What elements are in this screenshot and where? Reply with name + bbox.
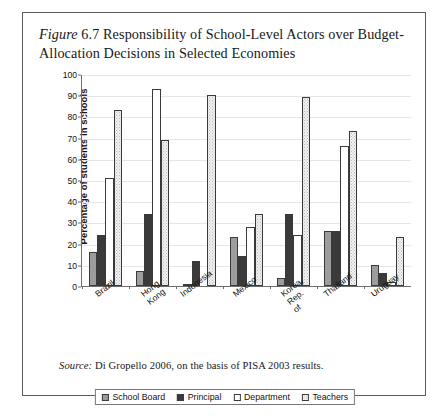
y-tick-label: 100 <box>53 70 77 80</box>
legend-label: Department <box>244 392 290 402</box>
chart-area: Percentage of students in schools 010203… <box>31 69 419 321</box>
bar-group <box>223 75 270 286</box>
figure-title: Figure 6.7 Responsibility of School-Leve… <box>39 25 407 63</box>
legend-label: School Board <box>112 392 165 402</box>
chart-legend: School BoardPrincipalDepartmentTeachers <box>95 389 355 405</box>
bar <box>324 231 332 286</box>
bar-group-bars <box>230 75 264 286</box>
x-label-cell: Thailand <box>317 289 364 339</box>
bar <box>285 214 293 286</box>
legend-swatch-icon <box>302 394 309 401</box>
plot-area <box>81 75 411 287</box>
figure-frame: Figure 6.7 Responsibility of School-Leve… <box>22 12 426 396</box>
source-text: Di Gropello 2006, on the basis of PISA 2… <box>95 360 324 371</box>
bar <box>136 271 144 286</box>
legend-item[interactable]: Department <box>233 392 289 402</box>
legend-swatch-icon <box>177 394 184 401</box>
legend-item[interactable]: Principal <box>177 392 221 402</box>
source-label: Source: <box>59 360 92 371</box>
bar <box>114 110 122 286</box>
x-label-cell: Korea, Rep. of <box>270 289 317 339</box>
x-label-cell: Mexico <box>222 289 269 339</box>
legend-label: Teachers <box>312 392 348 402</box>
bar-group <box>317 75 364 286</box>
y-tick-label: 10 <box>53 261 77 271</box>
y-tick-label: 30 <box>53 218 77 228</box>
y-tick-label: 20 <box>53 240 77 250</box>
bar <box>152 89 160 286</box>
y-tick-label: 80 <box>53 112 77 122</box>
bars-layer <box>82 75 411 286</box>
x-label-cell: Indonesia <box>175 289 222 339</box>
bar-group-bars <box>371 75 405 286</box>
bar-group <box>364 75 411 286</box>
y-tick-label: 0 <box>53 282 77 292</box>
bar <box>349 131 357 286</box>
source-note: Source: Di Gropello 2006, on the basis o… <box>59 360 399 371</box>
y-tick-label: 90 <box>53 91 77 101</box>
plot-wrapper: 0102030405060708090100 <box>81 75 411 287</box>
bar <box>144 214 152 286</box>
x-axis-labels: BrazilHong KongIndonesiaMexicoKorea, Rep… <box>81 289 411 339</box>
y-tick-label: 40 <box>53 197 77 207</box>
figure-number: 6.7 <box>81 26 99 42</box>
legend-swatch-icon <box>233 394 240 401</box>
bar <box>230 237 238 286</box>
bar-group <box>176 75 223 286</box>
y-tick-label: 60 <box>53 155 77 165</box>
y-tick-label: 50 <box>53 176 77 186</box>
legend-swatch-icon <box>102 394 109 401</box>
x-label-cell: Brazil <box>81 289 128 339</box>
bar-group <box>270 75 317 286</box>
bar <box>277 278 285 286</box>
y-axis-ticks: 0102030405060708090100 <box>53 75 77 287</box>
bar <box>161 140 169 286</box>
bar-group-bars <box>277 75 311 286</box>
bar-group <box>82 75 129 286</box>
bar-group-bars <box>324 75 358 286</box>
figure-title-line1: Responsibility of School-Level Actors ov… <box>103 26 354 42</box>
legend-item[interactable]: Teachers <box>302 392 348 402</box>
bar-group <box>129 75 176 286</box>
bar-group-bars <box>183 75 217 286</box>
x-label-cell: Uruguay <box>364 289 411 339</box>
x-label-cell: Hong Kong <box>128 289 175 339</box>
bar-group-bars <box>89 75 123 286</box>
bar-group-bars <box>136 75 170 286</box>
bar <box>207 95 216 286</box>
bar <box>89 252 97 286</box>
bar <box>255 214 263 286</box>
bar <box>340 146 348 286</box>
legend-label: Principal <box>188 392 222 402</box>
y-tick-label: 70 <box>53 134 77 144</box>
bar <box>105 178 113 286</box>
legend-item[interactable]: School Board <box>102 392 165 402</box>
figure-label-word: Figure <box>39 26 78 42</box>
bar <box>302 97 310 286</box>
bar <box>97 235 105 286</box>
